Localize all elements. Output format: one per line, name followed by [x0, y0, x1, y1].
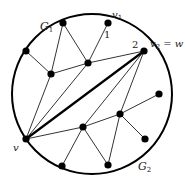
node-D: [116, 110, 123, 117]
edge-leftUpper-A: [26, 51, 51, 74]
edge-A-B: [51, 63, 88, 74]
edge-D-rightLower: [120, 114, 145, 139]
planar-graph-diagram: G1 G2 v v1 v2 = w 1 2: [0, 0, 185, 180]
node-bottomRight: [104, 161, 111, 168]
edge-top-B: [63, 23, 88, 63]
outer-circle: [12, 14, 172, 174]
node-v1: [104, 19, 111, 26]
node-B: [84, 59, 91, 66]
node-right: [155, 90, 162, 97]
label-g2: G2: [138, 160, 151, 174]
label-1: 1: [104, 29, 110, 40]
node-leftUpper: [22, 47, 29, 54]
label-g1: G1: [40, 20, 53, 34]
node-v: [22, 135, 29, 142]
node-A: [47, 70, 54, 77]
edge-D-bottomRight: [108, 114, 120, 165]
label-v1: v1: [112, 9, 122, 22]
node-v2: [140, 47, 147, 54]
edge-D-right: [120, 94, 159, 114]
label-2: 2: [132, 39, 138, 50]
label-v2-equals-w: v2 = w: [150, 38, 184, 51]
node-bottomLeft: [58, 162, 65, 169]
label-v: v: [13, 142, 19, 153]
node-C: [79, 123, 86, 130]
edges: [26, 23, 159, 166]
edge-C-bottomRight: [83, 127, 108, 165]
node-top: [59, 19, 66, 26]
edge-C-bottomLeft: [62, 127, 83, 166]
node-rightLower: [141, 135, 148, 142]
